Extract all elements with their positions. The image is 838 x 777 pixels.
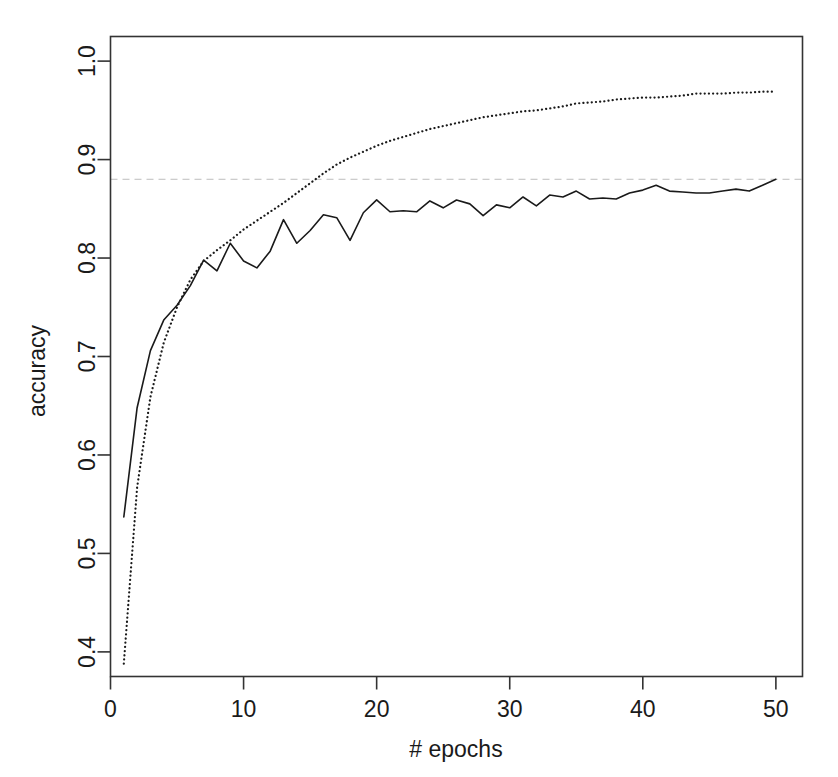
x-tick-label-10: 10 xyxy=(231,696,257,722)
x-tick-label-50: 50 xyxy=(763,696,789,722)
x-axis-title: # epochs xyxy=(409,736,502,762)
y-axis-title: accuracy xyxy=(24,324,50,417)
y-tick-label-0.7: 0.7 xyxy=(74,341,100,373)
x-tick-label-20: 20 xyxy=(364,696,390,722)
y-tick-label-1: 1.0 xyxy=(74,45,100,77)
x-tick-label-40: 40 xyxy=(630,696,656,722)
y-tick-label-0.4: 0.4 xyxy=(74,636,100,668)
x-tick-label-0: 0 xyxy=(104,696,117,722)
x-tick-label-30: 30 xyxy=(497,696,523,722)
figure-background xyxy=(0,0,838,777)
y-tick-label-0.9: 0.9 xyxy=(74,144,100,176)
y-tick-label-0.8: 0.8 xyxy=(74,242,100,274)
accuracy-vs-epochs-line-chart: 01020304050 0.40.50.60.70.80.91.0 # epoc… xyxy=(0,0,838,777)
y-tick-label-0.5: 0.5 xyxy=(74,537,100,569)
figure-container: 01020304050 0.40.50.60.70.80.91.0 # epoc… xyxy=(0,0,838,777)
y-tick-label-0.6: 0.6 xyxy=(74,439,100,471)
